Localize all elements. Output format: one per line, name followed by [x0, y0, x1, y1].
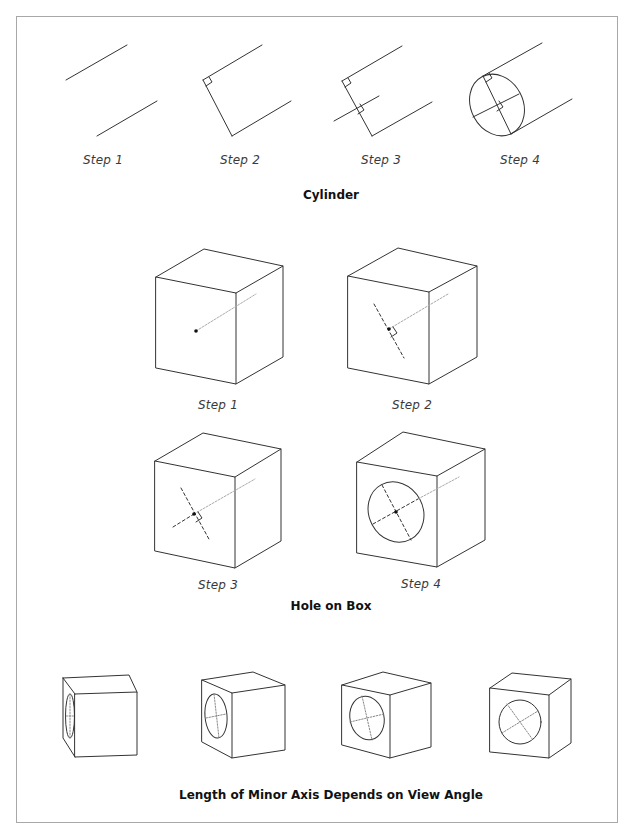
box-step-3-figure [155, 433, 281, 568]
cylinder-step-3-label: Step 3 [361, 153, 401, 167]
cylinder-step-4-label: Step 4 [500, 153, 540, 167]
view-angle-box-4-figure [490, 673, 571, 758]
box-step-1-figure [156, 249, 283, 384]
cylinder-step-2-figure [203, 45, 291, 136]
box-step-1-label: Step 1 [198, 398, 238, 412]
cylinder-step-1-label: Step 1 [83, 153, 123, 167]
cylinder-step-3-figure [334, 46, 432, 136]
diagram-canvas [0, 0, 632, 831]
hole-on-box-title: Hole on Box [291, 599, 372, 613]
center-point-icon [194, 329, 198, 333]
box-step-4-label: Step 4 [401, 577, 441, 591]
cylinder-step-1-figure [66, 45, 157, 136]
cylinder-step-4-figure [459, 43, 572, 145]
center-point-icon [394, 510, 398, 514]
center-point-icon [387, 327, 391, 331]
box-step-4-figure [357, 432, 485, 567]
cylinder-step-2-label: Step 2 [220, 153, 260, 167]
right-angle-mark-icon [206, 77, 212, 86]
box-step-2-figure [348, 248, 477, 384]
view-angle-box-2-figure [202, 672, 285, 758]
cylinder-title: Cylinder [303, 188, 359, 202]
box-step-2-label: Step 2 [392, 398, 432, 412]
view-angle-box-3-figure [342, 672, 431, 758]
box-step-3-label: Step 3 [198, 578, 238, 592]
view-angle-caption: Length of Minor Axis Depends on View Ang… [179, 788, 483, 802]
view-angle-box-1-figure [63, 675, 137, 757]
right-angle-mark-icon [345, 78, 351, 87]
center-point-icon [192, 512, 196, 516]
